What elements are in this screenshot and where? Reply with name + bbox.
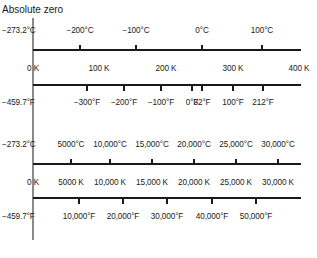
celsius-label: 30,000°C bbox=[261, 140, 294, 149]
celsius-tick bbox=[135, 45, 136, 51]
celsius-tick bbox=[70, 159, 71, 165]
fahrenheit-tick bbox=[122, 198, 123, 204]
celsius-label: 10,000°C bbox=[93, 140, 126, 149]
fahrenheit-label: 20,000°F bbox=[107, 212, 140, 221]
fahrenheit-tick bbox=[232, 85, 233, 91]
fahrenheit-label: 10,000°F bbox=[63, 212, 96, 221]
kelvin-label: 0 K bbox=[27, 64, 39, 73]
fahrenheit-label: 40,000°F bbox=[196, 212, 229, 221]
fahrenheit-tick bbox=[78, 198, 79, 204]
celsius-label: 15,000°C bbox=[135, 140, 168, 149]
kelvin-label: 20,000 K bbox=[178, 178, 210, 187]
celsius-tick bbox=[277, 159, 278, 165]
fahrenheit-tick bbox=[262, 85, 263, 91]
fahrenheit-tick bbox=[211, 198, 212, 204]
celsius-tick bbox=[151, 159, 152, 165]
fahrenheit-tick bbox=[255, 198, 256, 204]
celsius-tick bbox=[193, 159, 194, 165]
kelvin-label: 25,000 K bbox=[220, 178, 252, 187]
celsius-label: 100°C bbox=[251, 26, 273, 35]
kelvin-label: 5000 K bbox=[58, 178, 83, 187]
celsius-label: 20,000°C bbox=[177, 140, 210, 149]
fahrenheit-tick bbox=[160, 85, 161, 91]
celsius-label: 5000°C bbox=[58, 140, 85, 149]
fahrenheit-label: 30,000°F bbox=[151, 212, 184, 221]
fahrenheit-label: −300°F bbox=[74, 98, 100, 107]
celsius-label: 0°C bbox=[195, 26, 208, 35]
celsius-tick bbox=[235, 159, 236, 165]
kelvin-label: 15,000 K bbox=[136, 178, 168, 187]
celsius-label: −273.2°C bbox=[2, 26, 36, 35]
celsius-kelvin-axis bbox=[33, 163, 301, 165]
celsius-label: −100°C bbox=[122, 26, 149, 35]
absolute-zero-label: Absolute zero bbox=[2, 4, 63, 15]
fahrenheit-label: −459.7°F bbox=[2, 98, 35, 107]
fahrenheit-label: 100°F bbox=[222, 98, 243, 107]
celsius-tick bbox=[201, 45, 202, 51]
kelvin-fahrenheit-axis bbox=[33, 84, 301, 86]
kelvin-label: 10,000 K bbox=[94, 178, 126, 187]
fahrenheit-label: −100°F bbox=[148, 98, 174, 107]
fahrenheit-label: 32°F bbox=[194, 98, 211, 107]
fahrenheit-label: −459.7°F bbox=[2, 212, 35, 221]
kelvin-label: 300 K bbox=[223, 64, 244, 73]
kelvin-label: 100 K bbox=[89, 64, 110, 73]
fahrenheit-tick bbox=[123, 85, 124, 91]
fahrenheit-label: −200°F bbox=[111, 98, 137, 107]
fahrenheit-tick bbox=[191, 85, 192, 91]
fahrenheit-tick bbox=[201, 85, 202, 91]
fahrenheit-label: 50,000°F bbox=[240, 212, 273, 221]
kelvin-label: 200 K bbox=[156, 64, 177, 73]
fahrenheit-tick bbox=[166, 198, 167, 204]
celsius-tick bbox=[109, 159, 110, 165]
celsius-label: −200°C bbox=[66, 26, 93, 35]
celsius-tick bbox=[79, 45, 80, 51]
celsius-label: −273.2°C bbox=[2, 140, 36, 149]
fahrenheit-tick bbox=[86, 85, 87, 91]
kelvin-label: 30,000 K bbox=[262, 178, 294, 187]
celsius-label: 25,000°C bbox=[219, 140, 252, 149]
kelvin-label: 400 K bbox=[289, 64, 310, 73]
celsius-tick bbox=[261, 45, 262, 51]
kelvin-label: 0 K bbox=[27, 178, 39, 187]
fahrenheit-label: 212°F bbox=[252, 98, 273, 107]
